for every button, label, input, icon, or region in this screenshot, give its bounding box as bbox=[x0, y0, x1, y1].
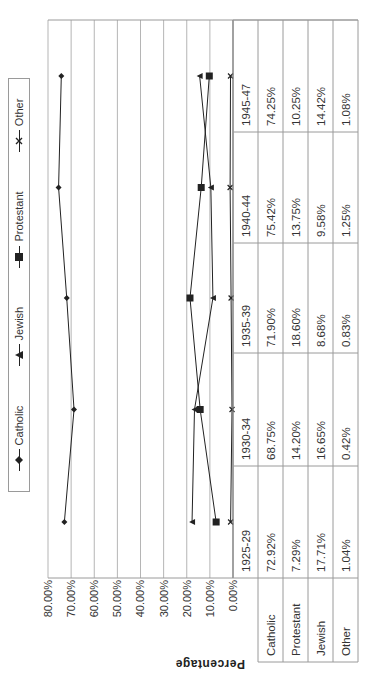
diamond-marker bbox=[56, 185, 62, 191]
diamond-marker bbox=[61, 519, 67, 525]
data-series bbox=[56, 73, 235, 526]
period-header: 1935-39 bbox=[233, 243, 258, 353]
diamond-marker bbox=[64, 295, 70, 301]
row-label: Catholic bbox=[258, 578, 283, 662]
table-cell: 8.68% bbox=[308, 243, 333, 353]
table-cell: 9.58% bbox=[308, 132, 333, 243]
row-label: Jewish bbox=[308, 578, 333, 662]
table-cell: 0.42% bbox=[333, 353, 358, 466]
table-cell: 16.65% bbox=[308, 353, 333, 466]
table-cell: 72.92% bbox=[258, 466, 283, 578]
table-cell: 13.75% bbox=[283, 132, 308, 243]
table-cell: 14.20% bbox=[283, 353, 308, 466]
table-cell: 75.42% bbox=[258, 132, 283, 243]
table-cell: 18.60% bbox=[283, 243, 308, 353]
table-cell: 1.04% bbox=[333, 466, 358, 578]
square-marker bbox=[197, 406, 204, 413]
table-cell: 1.25% bbox=[333, 132, 358, 243]
row-label: Other bbox=[333, 578, 358, 662]
table-cell: 10.25% bbox=[283, 20, 308, 132]
chart-canvas: Catholic Jewish Protestant Other Percent… bbox=[0, 0, 375, 686]
table-cell: 0.83% bbox=[333, 243, 358, 353]
table-cell: 14.42% bbox=[308, 20, 333, 132]
diamond-marker bbox=[58, 73, 64, 79]
square-marker bbox=[206, 73, 213, 80]
square-marker bbox=[213, 519, 220, 526]
square-marker bbox=[186, 295, 193, 302]
table-cell: 1.08% bbox=[333, 20, 358, 132]
table-cell: 7.29% bbox=[283, 466, 308, 578]
square-marker bbox=[198, 184, 205, 191]
series-catholic bbox=[56, 73, 77, 525]
table-cell: 17.71% bbox=[308, 466, 333, 578]
period-header: 1945-47 bbox=[233, 20, 258, 132]
table-cell: 74.25% bbox=[258, 20, 283, 132]
table-cell: 68.75% bbox=[258, 353, 283, 466]
period-header: 1940-44 bbox=[233, 132, 258, 243]
table-cell: 71.90% bbox=[258, 243, 283, 353]
diamond-marker bbox=[71, 407, 77, 413]
period-header: 1930-34 bbox=[233, 353, 258, 466]
period-header: 1925-29 bbox=[233, 466, 258, 578]
row-label: Protestant bbox=[283, 578, 308, 662]
